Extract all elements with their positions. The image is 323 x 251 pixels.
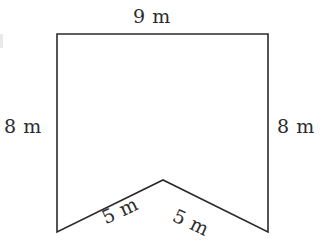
chevron-polygon-shape: [0, 0, 323, 251]
dimension-label-right: 8 m: [277, 117, 315, 136]
geometry-figure: 9 m 8 m 8 m 5 m 5 m: [0, 0, 323, 251]
dimension-label-top: 9 m: [133, 7, 171, 26]
dimension-label-left: 8 m: [4, 117, 42, 136]
notched-rectangle-outline: [57, 34, 268, 232]
